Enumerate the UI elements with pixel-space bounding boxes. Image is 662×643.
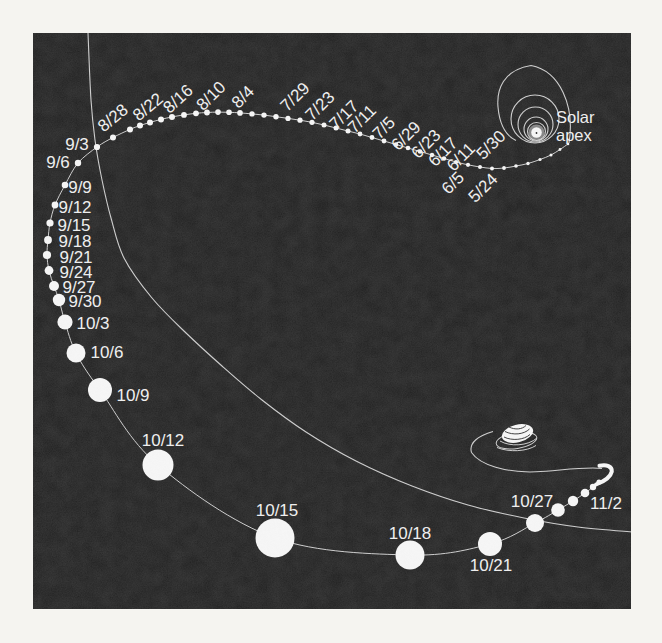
panel-contents: Solar apex 8/288/228/168/108/47/297/237/…	[33, 33, 633, 609]
sky-path-diagram: Solar apex 8/288/228/168/108/47/297/237/…	[0, 0, 662, 643]
figure-page: Solar apex 8/288/228/168/108/47/297/237/…	[0, 0, 662, 643]
film-grain-blotch	[33, 33, 631, 609]
